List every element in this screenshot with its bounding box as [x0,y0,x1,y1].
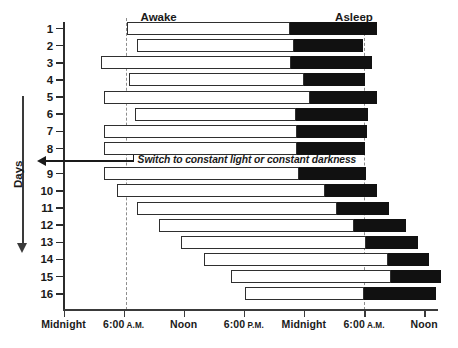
bar-asleep-day-14 [388,253,429,266]
actogram-chart: AwakeAsleep 12345678910111213141516 Midn… [0,0,458,348]
x-tick-0 [64,309,66,317]
bar-asleep-day-15 [391,270,441,283]
y-tick-12 [56,224,64,226]
bar-asleep-day-16 [364,287,436,300]
bar-awake-day-8 [104,142,297,155]
y-tick-16 [56,293,64,295]
y-tick-label-4: 4 [31,74,53,86]
y-tick-label-14: 14 [31,253,53,265]
bar-asleep-day-6 [296,108,368,121]
y-tick-10 [56,190,64,192]
x-tick-3 [244,309,246,317]
bar-awake-day-2 [137,39,294,52]
x-tick-5 [364,309,366,317]
y-tick-7 [56,131,64,133]
y-tick-label-12: 12 [31,219,53,231]
bar-asleep-day-12 [354,219,406,232]
switch-annotation-tick [133,155,134,162]
y-tick-11 [56,207,64,209]
y-tick-label-7: 7 [31,125,53,137]
bar-asleep-day-4 [304,73,365,86]
y-tick-8 [56,148,64,150]
y-tick-6 [56,113,64,115]
x-tick-label-6: Noon [410,318,437,330]
x-tick-label-5: 6:00 A.M. [343,318,384,330]
x-axis-line [63,309,438,311]
y-tick-label-3: 3 [31,57,53,69]
bar-awake-day-9 [104,167,299,180]
x-tick-6 [424,309,426,317]
x-tick-label-4: Midnight [282,318,327,330]
bar-asleep-day-9 [299,167,366,180]
bar-awake-day-4 [129,73,304,86]
y-tick-label-16: 16 [31,288,53,300]
x-tick-4 [304,309,306,317]
y-tick-label-10: 10 [31,185,53,197]
y-tick-label-11: 11 [31,202,53,214]
bar-awake-day-16 [245,287,364,300]
bar-asleep-day-13 [366,236,418,249]
bar-asleep-day-3 [291,56,372,69]
bar-awake-day-15 [231,270,391,283]
y-tick-label-6: 6 [31,108,53,120]
y-tick-label-13: 13 [31,236,53,248]
bar-awake-day-3 [101,56,291,69]
bar-asleep-day-7 [297,125,367,138]
x-tick-label-1: 6:00 A.M. [103,318,144,330]
y-axis-title: Days [12,161,24,189]
y-tick-4 [56,79,64,81]
bar-asleep-day-11 [337,202,389,215]
switch-annotation-label: Switch to constant light or constant dar… [138,154,357,165]
switch-annotation-arrowhead [37,156,46,166]
bar-asleep-day-2 [294,39,363,52]
bar-awake-day-1 [127,22,290,35]
bar-awake-day-11 [137,202,337,215]
y-tick-5 [56,96,64,98]
bar-awake-day-13 [181,236,366,249]
y-tick-3 [56,62,64,64]
x-tick-label-0: Midnight [41,318,86,330]
y-tick-9 [56,173,64,175]
bar-awake-day-5 [104,91,310,104]
bar-awake-day-7 [104,125,297,138]
bar-awake-day-10 [117,184,325,197]
bar-asleep-day-1 [290,22,377,35]
y-tick-label-8: 8 [31,143,53,155]
bar-awake-day-14 [204,253,388,266]
switch-annotation-line [46,160,134,162]
y-tick-label-5: 5 [31,91,53,103]
y-tick-2 [56,45,64,47]
bar-awake-day-6 [135,108,296,121]
y-tick-label-9: 9 [31,168,53,180]
bar-awake-day-12 [159,219,354,232]
y-tick-label-1: 1 [31,23,53,35]
y-tick-13 [56,242,64,244]
y-axis-line [63,22,65,310]
x-tick-label-2: Noon [170,318,197,330]
days-axis-arrow-head [17,243,27,253]
y-tick-1 [56,28,64,30]
bar-asleep-day-8 [297,142,365,155]
y-tick-label-2: 2 [31,40,53,52]
bar-asleep-day-5 [310,91,377,104]
x-tick-label-3: 6:00 P.M. [224,318,264,330]
y-tick-label-15: 15 [31,271,53,283]
x-tick-1 [124,309,126,317]
x-tick-2 [184,309,186,317]
bar-asleep-day-10 [325,184,377,197]
y-tick-15 [56,276,64,278]
y-tick-14 [56,259,64,261]
